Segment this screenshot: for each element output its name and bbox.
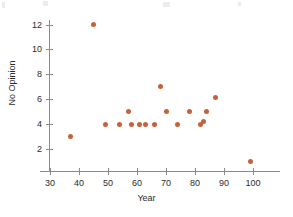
x-tick-label-70: 70 xyxy=(153,178,179,188)
data-point xyxy=(143,122,148,127)
y-tick-12 xyxy=(46,25,53,26)
x-tick-100 xyxy=(253,168,254,175)
y-tick-label-6: 6 xyxy=(22,94,42,104)
x-tick-50 xyxy=(108,168,109,175)
y-tick-6 xyxy=(46,99,53,100)
x-axis-title: Year xyxy=(0,193,293,203)
data-point xyxy=(91,22,96,27)
x-tick-label-100: 100 xyxy=(240,178,266,188)
x-tick-label-90: 90 xyxy=(211,178,237,188)
x-tick-90 xyxy=(224,168,225,175)
y-tick-label-2: 2 xyxy=(22,144,42,154)
y-tick-label-4: 4 xyxy=(22,119,42,129)
x-tick-label-40: 40 xyxy=(66,178,92,188)
data-point xyxy=(158,84,163,89)
data-point xyxy=(201,119,206,124)
x-tick-40 xyxy=(79,168,80,175)
x-tick-70 xyxy=(166,168,167,175)
data-point xyxy=(213,95,218,100)
x-tick-label-80: 80 xyxy=(182,178,208,188)
data-point xyxy=(204,109,209,114)
y-tick-label-12: 12 xyxy=(22,20,42,30)
data-point xyxy=(175,122,180,127)
data-point xyxy=(103,122,108,127)
x-tick-label-30: 30 xyxy=(37,178,63,188)
x-tick-60 xyxy=(137,168,138,175)
data-point xyxy=(129,122,134,127)
y-axis-title: No Opinion xyxy=(7,43,17,123)
data-point xyxy=(68,134,73,139)
data-point xyxy=(248,159,253,164)
scatterplot-figure: 30405060708090100 24681012 Year No Opini… xyxy=(0,0,293,217)
data-point xyxy=(137,122,142,127)
x-axis-line xyxy=(40,171,280,172)
y-tick-10 xyxy=(46,49,53,50)
data-point xyxy=(187,109,192,114)
y-tick-8 xyxy=(46,74,53,75)
data-point xyxy=(126,109,131,114)
y-tick-label-8: 8 xyxy=(22,69,42,79)
x-tick-label-60: 60 xyxy=(124,178,150,188)
x-tick-30 xyxy=(50,168,51,175)
y-tick-label-10: 10 xyxy=(22,44,42,54)
y-tick-2 xyxy=(46,149,53,150)
y-tick-4 xyxy=(46,124,53,125)
data-point xyxy=(164,109,169,114)
plot-area: 30405060708090100 24681012 Year No Opini… xyxy=(0,0,293,217)
data-point xyxy=(152,122,157,127)
x-tick-label-50: 50 xyxy=(95,178,121,188)
data-point xyxy=(117,122,122,127)
x-tick-80 xyxy=(195,168,196,175)
